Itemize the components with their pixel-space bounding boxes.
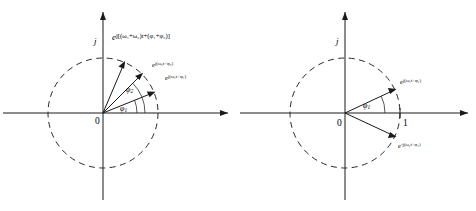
phasor-omega2-label-exponent: j(ω₂t+φ₂) [154, 61, 174, 66]
real-axis-arrowhead-right [460, 110, 468, 116]
phasor-negative-frequency-label-exponent: -j(ω₁t+φ₁) [401, 142, 421, 147]
phasor-positive-frequency-label: ej(ω₁t+φ₁) [400, 78, 421, 85]
angle-label-phi2-left: φ2 [126, 85, 133, 94]
phasor-diagram-left: j 0 φ1 φ2 ej[(ω₁+ω₂)t+(φ₁+φ₂)] ej(ω₂t+φ₂… [0, 0, 238, 211]
phasor-negative-frequency-line [345, 113, 395, 136]
real-axis-arrowhead-left [220, 110, 228, 116]
unit-label-right: 1 [403, 118, 408, 128]
phasor-diagram-right: j 0 1 φ1 ej(ω₁t+φ₁) e-j(ω₁t+φ₁) [238, 0, 476, 211]
imaginary-axis-label-left: j [93, 36, 97, 46]
angle-label-phi1-subscript: 1 [124, 107, 127, 113]
imaginary-axis-arrowhead-right [342, 12, 348, 20]
phasor-product-label-exponent: j[(ω₁+ω₂)t+(φ₁+φ₂)] [115, 32, 170, 40]
phasor-product-arrowhead [118, 61, 125, 69]
phasor-omega1-label: ej(ω₁t+φ₁) [165, 74, 186, 81]
phasor-negative-frequency-label: e-j(ω₁t+φ₁) [398, 142, 421, 149]
angle-arc-phi1-right [381, 96, 385, 113]
phasor-omega1-label-exponent: j(ω₁t+φ₁) [167, 74, 187, 79]
imaginary-axis-label-right: j [335, 36, 339, 46]
origin-label-right: 0 [337, 118, 342, 128]
phasor-omega2-label: ej(ω₂t+φ₂) [152, 61, 173, 68]
figure-root: j 0 φ1 φ2 ej[(ω₁+ω₂)t+(φ₁+φ₂)] ej(ω₂t+φ₂… [0, 0, 476, 211]
angle-label-phi1-right: φ1 [363, 101, 370, 110]
angle-label-phi2-subscript: 2 [130, 88, 133, 94]
imaginary-axis-arrowhead-left [100, 12, 106, 20]
angle-arc-phi1-left [135, 100, 138, 113]
phasor-product-label: ej[(ω₁+ω₂)t+(φ₁+φ₂)] [112, 32, 170, 42]
angle-label-phi1-subscript-right: 1 [367, 104, 370, 110]
phasor-positive-frequency-arrowhead [388, 88, 397, 94]
phasor-positive-frequency-label-exponent: j(ω₁t+φ₁) [402, 78, 422, 83]
origin-label-left: 0 [95, 116, 100, 126]
angle-label-phi1-left: φ1 [120, 104, 127, 113]
